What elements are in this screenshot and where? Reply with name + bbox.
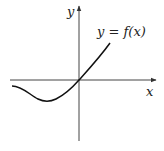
- function-graph: y x y = f(x): [0, 0, 164, 151]
- function-curve: [12, 43, 110, 101]
- curve-label: y = f(x): [96, 24, 146, 39]
- x-axis-label: x: [146, 84, 154, 99]
- y-axis-label: y: [66, 4, 75, 19]
